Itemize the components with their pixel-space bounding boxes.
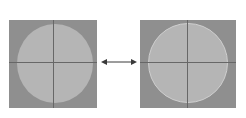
left-circle bbox=[17, 24, 93, 103]
right-panel bbox=[140, 20, 236, 108]
double-arrow-icon bbox=[101, 57, 137, 67]
right-crosshair-horizontal bbox=[140, 62, 236, 63]
right-circle bbox=[148, 23, 228, 103]
left-crosshair-vertical bbox=[53, 20, 54, 108]
left-panel bbox=[9, 20, 97, 108]
right-crosshair-vertical bbox=[187, 20, 188, 108]
